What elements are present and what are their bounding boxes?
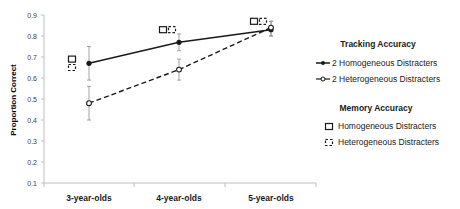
- square-icon: [69, 56, 76, 62]
- dashed-square-icon: [260, 18, 267, 24]
- svg-text:2 Heterogeneous Distracters: 2 Heterogeneous Distracters: [332, 74, 440, 84]
- square-icon: [251, 18, 258, 24]
- y-axis-label: Proportion Correct: [9, 64, 18, 136]
- open-circle-icon: [321, 77, 325, 81]
- dashed-square-icon: [69, 65, 76, 71]
- legend-item-homogeneous-tracking: 2 Homogeneous Distracters: [316, 58, 437, 68]
- y-tick-label: 0.1: [27, 180, 37, 187]
- line-chart: 0.10.20.30.40.50.60.70.80.9 Proportion C…: [0, 0, 460, 209]
- y-tick-label: 0.6: [27, 75, 37, 82]
- legend-item-heterogeneous-tracking: 2 Heterogeneous Distracters: [316, 74, 440, 84]
- dashed-square-icon: [169, 27, 176, 33]
- y-tick-label: 0.8: [27, 33, 37, 40]
- legend-title-tracking: Tracking Accuracy: [340, 39, 416, 49]
- svg-text:2 Homogeneous Distracters: 2 Homogeneous Distracters: [332, 58, 437, 68]
- data-point: [86, 61, 91, 66]
- heterogeneous-tracking-line: [89, 28, 271, 104]
- legend-item-heterogeneous-memory: Heterogeneous Distracters: [326, 137, 440, 147]
- x-category-label: 5-year-olds: [248, 193, 294, 203]
- y-ticks: 0.10.20.30.40.50.60.70.80.9: [27, 12, 44, 187]
- data-point: [269, 25, 274, 30]
- svg-text:Homogeneous Distracters: Homogeneous Distracters: [338, 121, 436, 131]
- y-tick-label: 0.4: [27, 117, 37, 124]
- y-tick-label: 0.9: [27, 12, 37, 19]
- square-icon: [160, 27, 167, 33]
- x-ticks: [44, 183, 316, 187]
- svg-text:Heterogeneous Distracters: Heterogeneous Distracters: [338, 137, 439, 147]
- square-icon: [326, 124, 333, 130]
- filled-circle-icon: [321, 61, 325, 65]
- data-point: [87, 101, 92, 106]
- homogeneous-tracking-line: [89, 30, 271, 64]
- x-category-label: 4-year-olds: [156, 193, 202, 203]
- y-tick-label: 0.2: [27, 159, 37, 166]
- data-point: [176, 40, 181, 45]
- series-lines: [89, 28, 271, 104]
- legend-item-homogeneous-memory: Homogeneous Distracters: [326, 121, 437, 131]
- y-tick-label: 0.7: [27, 54, 37, 61]
- y-tick-label: 0.5: [27, 96, 37, 103]
- y-tick-label: 0.3: [27, 138, 37, 145]
- legend: Tracking Accuracy 2 Homogeneous Distract…: [316, 39, 440, 147]
- x-category-label: 3-year-olds: [66, 193, 112, 203]
- data-point: [177, 67, 182, 72]
- legend-title-memory: Memory Accuracy: [340, 103, 413, 113]
- dashed-square-icon: [326, 140, 333, 146]
